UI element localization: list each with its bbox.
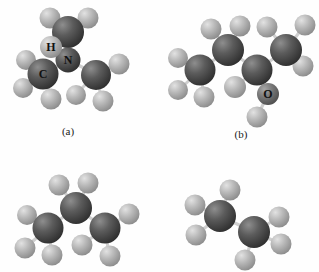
hydrogen-atom	[271, 234, 292, 255]
panel-d-svg	[182, 178, 307, 270]
hydrogen-atom	[201, 19, 222, 40]
hydroxyl-hydrogen-atom	[247, 107, 268, 128]
panel-b-svg: O	[162, 2, 317, 127]
hydrogen-atom	[168, 48, 188, 68]
carbon-atom	[33, 213, 64, 244]
carbon-atom	[242, 55, 273, 86]
panel-b-alcohol: O	[162, 2, 317, 127]
hydrogen-atom	[168, 80, 188, 100]
caption-a: (a)	[48, 125, 88, 137]
hydrogen-atom	[269, 207, 290, 228]
hydrogen-atom	[41, 89, 62, 110]
hydrogen-atom	[257, 17, 278, 38]
hydrogen-atom	[220, 180, 241, 201]
panel-c-propane	[12, 170, 162, 270]
hydrogen-atom	[100, 246, 121, 267]
hydrogen-atom	[93, 91, 114, 112]
hydrogen-atom	[109, 54, 130, 75]
carbon-atom	[212, 34, 244, 66]
carbon-atom	[270, 34, 302, 66]
carbon-atom	[60, 192, 92, 224]
hydrogen-atom	[15, 238, 36, 259]
carbon-atom	[90, 213, 121, 244]
carbon-atom	[204, 200, 236, 232]
molecular-models-figure: H N C (a)	[0, 0, 319, 272]
atom-label-h: H	[46, 40, 56, 54]
carbon-atom	[238, 216, 270, 248]
atom-label-o: O	[263, 87, 272, 101]
hydrogen-atom	[295, 15, 316, 36]
hydrogen-atom	[78, 173, 99, 194]
atom-label-n: N	[64, 53, 73, 67]
hydrogen-atom	[185, 195, 206, 216]
panel-a-trimethylamine: H N C	[6, 2, 156, 122]
atom-label-c: C	[39, 67, 48, 81]
panel-c-svg	[12, 170, 162, 270]
caption-b: (b)	[221, 128, 261, 140]
hydrogen-atom	[186, 225, 207, 246]
hydrogen-atom	[49, 175, 70, 196]
hydrogen-atom	[230, 16, 251, 37]
hydrogen-atom	[72, 235, 93, 256]
hydrogen-atom	[66, 85, 86, 105]
hydrogen-atom	[235, 250, 256, 271]
hydrogen-atom	[194, 87, 215, 108]
carbon-atom	[81, 60, 111, 90]
panel-a-svg: H N C	[6, 2, 156, 122]
hydrogen-atom	[119, 204, 140, 225]
panel-d-ethane	[182, 178, 307, 270]
hydrogen-atom	[224, 76, 246, 98]
carbon-atom	[185, 55, 216, 86]
hydrogen-atom	[42, 245, 63, 266]
